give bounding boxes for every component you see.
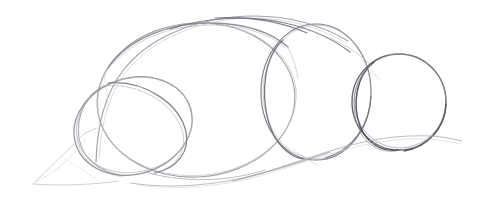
pencil-sketch-drawing	[0, 0, 497, 203]
sketch-canvas	[0, 0, 497, 203]
paper-background	[0, 0, 497, 203]
